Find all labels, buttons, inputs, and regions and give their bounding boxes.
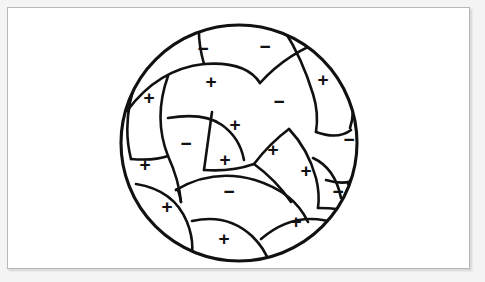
charge-symbol-cell-11: + [219, 149, 230, 170]
charge-symbol-cell-16: − [223, 181, 234, 202]
charge-symbol-cell-01: − [197, 38, 208, 59]
charge-symbol-cell-18: + [218, 228, 229, 249]
charge-symbol-cell-05: + [317, 69, 328, 90]
figure-frame: − − + + + − + − − + + + + − + − + [7, 7, 470, 269]
charge-symbol-cell-13: + [300, 160, 311, 181]
charge-symbol-cell-15: + [161, 196, 172, 217]
page-root: − − + + + − + − − + + + + − + − + [0, 0, 485, 282]
charge-symbol-cell-08: − [180, 133, 191, 154]
disc-figure: − − + + + − + − − + + + + − + − + [8, 8, 471, 270]
charge-symbol-cell-04: + [205, 71, 216, 92]
charge-symbol-cell-09: − [343, 129, 354, 150]
charge-symbol-cell-02: − [259, 36, 270, 57]
charge-symbol-cell-12: + [267, 139, 278, 160]
disc-svg: − − + + + − + − − + + + + − + − + [8, 8, 471, 270]
charge-symbol-cell-14: − [332, 181, 343, 202]
charge-symbol-cell-06: − [273, 91, 284, 112]
charge-symbol-cell-07: + [229, 114, 240, 135]
charge-symbol-cell-03: + [143, 87, 154, 108]
charge-symbol-cell-10: + [139, 154, 150, 175]
charge-symbol-cell-17: + [290, 211, 301, 232]
